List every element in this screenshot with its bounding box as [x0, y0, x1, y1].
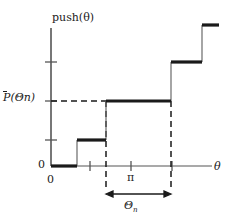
- pbar-letter: P: [3, 91, 10, 104]
- interval-subscript: n: [133, 205, 138, 214]
- interval-theta: Θ: [124, 199, 133, 212]
- y-axis-pbar-label: P(Θn): [3, 92, 35, 103]
- y-origin-label: 0: [38, 159, 45, 170]
- interval-label: Θn: [124, 200, 138, 213]
- y-axis-label: push(θ): [52, 12, 94, 23]
- plot-canvas: [0, 0, 232, 223]
- pbar-overline: P: [3, 92, 10, 103]
- x-origin-label: 0: [47, 174, 54, 185]
- step-risers: [77, 25, 202, 166]
- pbar-argument: (Θn): [10, 91, 35, 104]
- interval-arrow: [106, 191, 171, 197]
- step-function-figure: push(θ) P(Θn) 0 0 π θ Θn: [0, 0, 232, 223]
- x-axis-label: θ: [214, 161, 221, 172]
- x-tick-label-pi: π: [127, 172, 134, 183]
- step-treads: [51, 25, 219, 166]
